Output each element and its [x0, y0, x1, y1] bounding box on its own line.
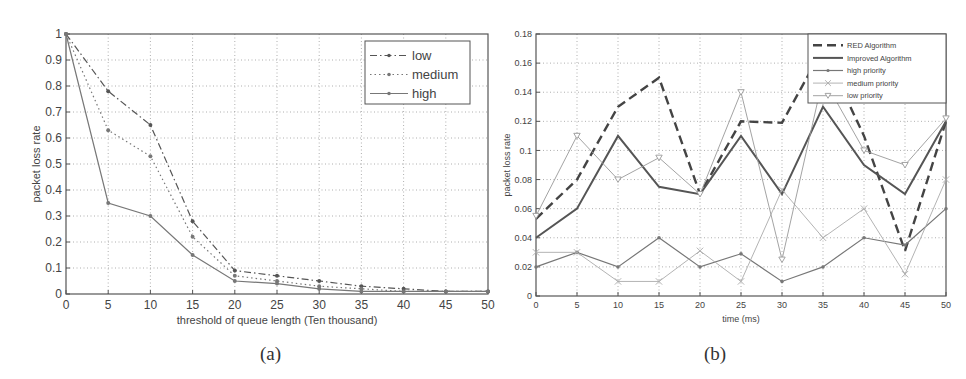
chart-a-caption: (a): [260, 343, 281, 365]
dot-marker-icon: [148, 214, 152, 218]
x-marker-icon: [697, 248, 703, 254]
legend-label: medium priority: [847, 79, 899, 88]
y-tick-label: 0.6: [45, 131, 62, 145]
dot-marker-icon: [616, 265, 620, 269]
chart-a-plot: 0510152025303540455000.10.20.30.40.50.60…: [0, 0, 500, 340]
dot-marker-icon: [148, 123, 152, 127]
dot-marker-icon: [862, 236, 866, 240]
legend-label: Improved Algorithm: [847, 54, 912, 63]
series-improved-algorithm: [536, 107, 946, 238]
dot-marker-icon: [64, 32, 68, 36]
dot-marker-icon: [821, 265, 825, 269]
dot-marker-icon: [233, 279, 237, 283]
x-tick-label: 20: [228, 298, 242, 312]
dot-marker-icon: [387, 54, 391, 58]
y-tick-label: 0.2: [45, 235, 62, 249]
y-tick-label: 0: [55, 287, 62, 301]
dot-marker-icon: [944, 207, 948, 211]
legend-label: high priority: [847, 66, 886, 75]
dot-marker-icon: [387, 92, 391, 96]
legend-label: low priority: [847, 91, 883, 100]
legend: RED AlgorithmImproved Algorithmhigh prio…: [808, 34, 946, 103]
dot-marker-icon: [698, 265, 702, 269]
y-tick-label: 0.12: [514, 116, 532, 126]
y-tick-label: 0.16: [514, 58, 532, 68]
y-tick-label: 0.18: [514, 29, 532, 39]
x-tick-label: 35: [818, 300, 828, 310]
y-axis-label: packet loss rate: [30, 125, 42, 202]
x-tick-label: 0: [533, 300, 538, 310]
x-tick-label: 50: [941, 300, 951, 310]
x-tick-label: 0: [63, 298, 70, 312]
y-tick-label: 0.7: [45, 105, 62, 119]
dot-marker-icon: [359, 289, 363, 293]
dot-marker-icon: [402, 289, 406, 293]
x-axis-label: time (ms): [722, 314, 760, 324]
y-tick-label: 0.08: [514, 175, 532, 185]
x-tick-label: 5: [105, 298, 112, 312]
dot-marker-icon: [106, 201, 110, 205]
chart-b-caption: (b): [704, 343, 726, 365]
dot-marker-icon: [106, 128, 110, 132]
y-axis-label: packet loss rate: [502, 133, 512, 196]
dot-marker-icon: [534, 265, 538, 269]
legend-label: medium: [412, 67, 458, 82]
triangle-down-marker-icon: [779, 257, 785, 262]
series-line: [536, 107, 946, 238]
dot-marker-icon: [191, 235, 195, 239]
x-tick-label: 45: [439, 298, 453, 312]
y-tick-label: 0.04: [514, 233, 532, 243]
x-marker-icon: [820, 235, 826, 241]
y-tick-label: 0.1: [519, 146, 532, 156]
y-tick-label: 0: [527, 291, 532, 301]
dot-marker-icon: [275, 274, 279, 278]
dot-marker-icon: [657, 236, 661, 240]
dot-marker-icon: [826, 69, 829, 72]
dot-marker-icon: [317, 287, 321, 291]
x-tick-label: 20: [695, 300, 705, 310]
dot-marker-icon: [191, 219, 195, 223]
dot-marker-icon: [191, 253, 195, 257]
y-tick-label: 0.9: [45, 53, 62, 67]
y-tick-label: 0.4: [45, 183, 62, 197]
dot-marker-icon: [233, 269, 237, 273]
chart-b-plot: 0510152025303540455000.020.040.060.080.1…: [490, 0, 966, 340]
y-tick-label: 0.5: [45, 157, 62, 171]
dot-marker-icon: [233, 274, 237, 278]
x-tick-label: 5: [574, 300, 579, 310]
y-tick-label: 0.3: [45, 209, 62, 223]
x-tick-label: 15: [186, 298, 200, 312]
x-tick-label: 10: [144, 298, 158, 312]
x-tick-label: 45: [900, 300, 910, 310]
y-tick-label: 0.1: [45, 261, 62, 275]
legend-label: RED Algorithm: [847, 41, 896, 50]
legend-label: high: [412, 86, 437, 101]
triangle-down-marker-icon: [902, 162, 908, 167]
x-tick-label: 30: [777, 300, 787, 310]
dot-marker-icon: [275, 282, 279, 286]
dot-marker-icon: [780, 280, 784, 284]
series-high-priority: [534, 207, 948, 283]
y-tick-label: 0.8: [45, 79, 62, 93]
y-tick-label: 0.02: [514, 262, 532, 272]
dot-marker-icon: [387, 73, 391, 77]
dot-marker-icon: [739, 252, 743, 256]
x-axis-label: threshold of queue length (Ten thousand): [177, 314, 378, 326]
legend-label: low: [412, 48, 432, 63]
x-tick-label: 25: [736, 300, 746, 310]
dot-marker-icon: [444, 289, 448, 293]
legend: lowmediumhigh: [365, 41, 470, 104]
dot-marker-icon: [903, 243, 907, 247]
x-tick-label: 35: [355, 298, 369, 312]
x-tick-label: 30: [313, 298, 327, 312]
y-tick-label: 0.14: [514, 87, 532, 97]
y-tick-label: 0.06: [514, 204, 532, 214]
x-tick-label: 40: [397, 298, 411, 312]
y-tick-label: 1: [55, 27, 62, 41]
x-tick-label: 10: [613, 300, 623, 310]
dot-marker-icon: [317, 279, 321, 283]
x-tick-label: 25: [270, 298, 284, 312]
x-tick-label: 15: [654, 300, 664, 310]
x-tick-label: 40: [859, 300, 869, 310]
dot-marker-icon: [148, 154, 152, 158]
